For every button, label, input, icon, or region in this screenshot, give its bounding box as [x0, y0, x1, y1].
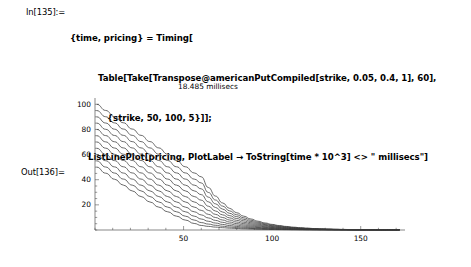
svg-text:100: 100	[265, 234, 279, 243]
svg-text:20: 20	[82, 200, 92, 209]
plot-svg: 5010015020406080100	[75, 92, 410, 257]
svg-text:100: 100	[77, 100, 91, 109]
notebook-page: In[135]:= {time, pricing} = Timing[ Tabl…	[0, 0, 471, 267]
svg-text:150: 150	[354, 234, 368, 243]
output-cell-label: Out[136]=	[21, 167, 65, 177]
svg-text:50: 50	[179, 234, 189, 243]
code-line-1: {time, pricing} = Timing[	[70, 32, 436, 45]
svg-text:80: 80	[82, 125, 92, 134]
svg-text:40: 40	[82, 175, 92, 184]
svg-text:60: 60	[82, 150, 92, 159]
input-cell-label: In[135]:=	[26, 7, 65, 17]
list-line-plot[interactable]: 18.485 millisecs 5010015020406080100	[75, 82, 410, 257]
plot-label: 18.485 millisecs	[178, 82, 238, 91]
